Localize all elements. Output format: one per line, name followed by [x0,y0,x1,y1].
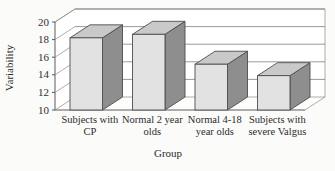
x-category-label: Normal 4-18 [188,114,242,125]
bar [70,25,123,110]
y-tick-label: 16 [38,51,50,63]
bar-chart: 101214161820 Subjects withCPNormal 2 yea… [0,0,335,171]
x-category-label: CP [83,126,96,137]
x-category-label: olds [144,126,162,137]
y-tick-label: 20 [38,16,50,28]
bar [195,51,248,110]
x-category-label: Normal 2 year [122,114,183,125]
y-tick-label: 18 [38,33,50,45]
x-category-label: year olds [196,126,234,137]
x-category-label: Subjects with [61,114,119,125]
y-axis: 101214161820 [38,16,55,116]
y-tick-label: 10 [38,104,50,116]
chart-canvas: 101214161820 Subjects withCPNormal 2 yea… [0,0,335,171]
y-tick-label: 12 [38,86,49,98]
x-axis-title: Group [154,147,183,159]
x-category-label: severe Valgus [248,126,306,137]
x-category-label: Subjects with [249,114,307,125]
y-axis-title: Variability [3,44,15,91]
bar [133,21,186,110]
y-tick-label: 14 [38,68,50,80]
x-axis: Subjects withCPNormal 2 yearoldsNormal 4… [61,114,306,137]
